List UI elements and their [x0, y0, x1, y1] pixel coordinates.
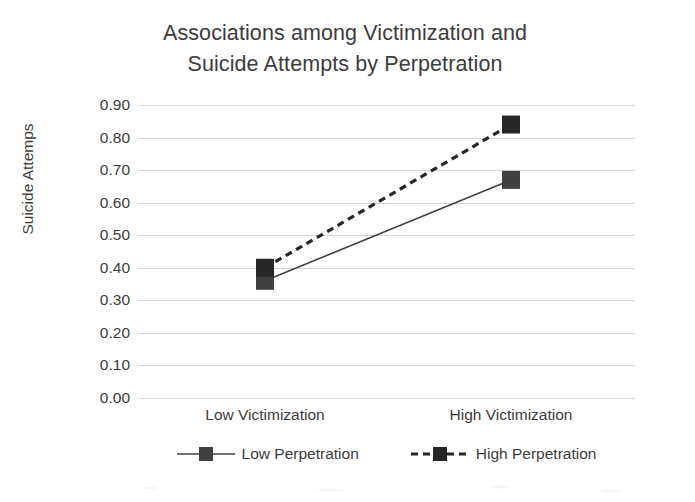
y-axis-tick-label: 0.80: [70, 130, 130, 146]
y-axis-tick-label: 0.70: [70, 162, 130, 178]
data-point-marker: [256, 259, 274, 277]
data-point-marker: [502, 171, 520, 189]
y-axis-tick-labels: 0.900.800.700.600.500.400.300.200.100.00: [68, 105, 130, 398]
legend-swatch-icon: [177, 445, 235, 463]
legend-label: Low Perpetration: [242, 445, 359, 463]
legend-entry[interactable]: Low Perpetration: [177, 445, 359, 463]
y-axis-tick-label: 0.00: [70, 390, 130, 406]
y-axis-tick-label: 0.20: [70, 325, 130, 341]
legend-swatch-icon: [411, 445, 469, 463]
series-layer: [138, 105, 635, 398]
x-axis-tick-label: High Victimization: [450, 406, 573, 424]
chart-title: Associations among Victimization and Sui…: [60, 18, 630, 80]
legend-entry[interactable]: High Perpetration: [411, 445, 597, 463]
y-axis-tick-label: 0.30: [70, 292, 130, 308]
data-point-marker: [502, 116, 520, 134]
legend-label: High Perpetration: [476, 445, 597, 463]
plot-area: [138, 105, 635, 398]
y-axis-tick-label: 0.90: [70, 97, 130, 113]
chart-legend: Low PerpetrationHigh Perpetration: [138, 445, 635, 463]
chart-figure: Associations among Victimization and Sui…: [0, 0, 695, 502]
y-axis-title: Suicide Attemps: [19, 89, 37, 269]
y-axis-tick-label: 0.40: [70, 260, 130, 276]
y-axis-tick-label: 0.60: [70, 195, 130, 211]
y-axis-tick-label: 0.10: [70, 357, 130, 373]
series-line: [265, 125, 511, 268]
series-line: [265, 180, 511, 281]
gridline: [138, 398, 635, 399]
x-axis-tick-label: Low Victimization: [205, 406, 324, 424]
y-axis-tick-label: 0.50: [70, 227, 130, 243]
